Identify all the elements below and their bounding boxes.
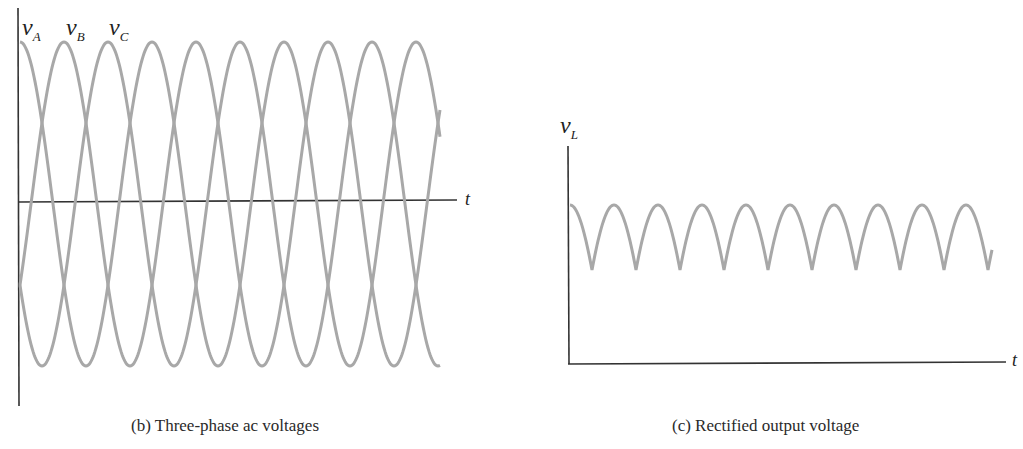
label-vB: vB bbox=[66, 14, 85, 45]
label-vC-main: v bbox=[109, 14, 120, 40]
label-vL-sub: L bbox=[571, 127, 578, 142]
left-y-axis bbox=[18, 8, 19, 406]
label-t-right: t bbox=[1012, 350, 1017, 371]
right-t-axis bbox=[568, 362, 1006, 364]
label-vC-sub: C bbox=[120, 29, 129, 44]
caption-right: (c) Rectified output voltage bbox=[672, 416, 859, 436]
label-vB-main: v bbox=[66, 14, 77, 40]
label-vA-sub: A bbox=[33, 29, 41, 44]
figure-canvas bbox=[0, 0, 1023, 449]
caption-left: (b) Three-phase ac voltages bbox=[131, 416, 319, 436]
label-vA: vA bbox=[22, 14, 41, 45]
label-t-left: t bbox=[465, 189, 470, 210]
wave-vB bbox=[20, 42, 440, 366]
label-vL-main: v bbox=[560, 112, 571, 138]
label-vB-sub: B bbox=[77, 29, 85, 44]
label-vL: vL bbox=[560, 112, 578, 143]
left-plot bbox=[18, 8, 457, 406]
right-y-axis bbox=[568, 146, 569, 364]
right-plot bbox=[568, 146, 1006, 364]
wave-vL-rectified bbox=[570, 205, 992, 270]
label-vC: vC bbox=[109, 14, 128, 45]
left-t-axis bbox=[18, 200, 457, 202]
label-vA-main: v bbox=[22, 14, 33, 40]
